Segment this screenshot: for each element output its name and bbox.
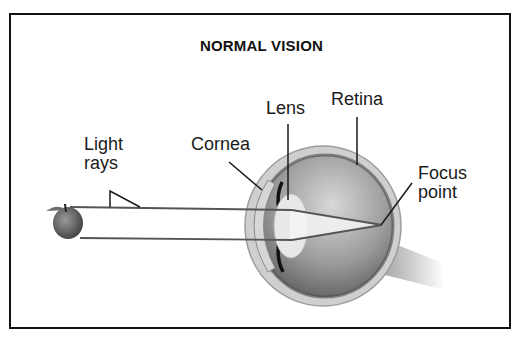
apple-object-icon xyxy=(46,204,83,239)
label-retina: Retina xyxy=(331,90,383,109)
label-cornea: Cornea xyxy=(191,135,250,154)
label-lens: Lens xyxy=(266,99,305,118)
label-focus-point: Focus point xyxy=(418,164,467,202)
label-light-rays: Light rays xyxy=(84,135,123,173)
